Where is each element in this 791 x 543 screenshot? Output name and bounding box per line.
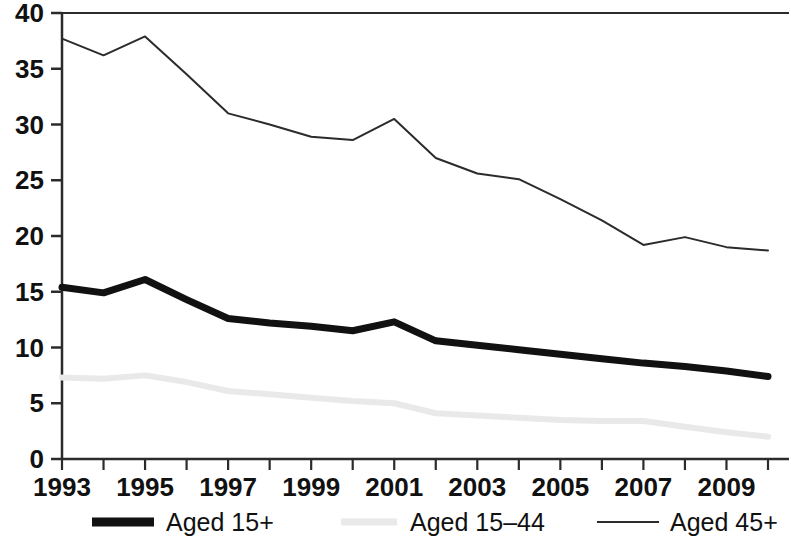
- y-tick-label-0: 0: [30, 444, 44, 474]
- y-tick-label-30: 30: [15, 110, 44, 140]
- chart-container: 0510152025303540 19931995199719992001200…: [0, 0, 791, 543]
- x-axis-tick-labels: 199319951997199920012003200520072009: [33, 472, 755, 502]
- y-tick-label-40: 40: [15, 0, 44, 28]
- y-tick-label-20: 20: [15, 221, 44, 251]
- x-tick-label-1997: 1997: [199, 472, 257, 502]
- x-tick-label-2005: 2005: [531, 472, 589, 502]
- line-chart: 0510152025303540 19931995199719992001200…: [0, 0, 791, 543]
- y-tick-label-25: 25: [15, 165, 44, 195]
- x-tick-label-1999: 1999: [282, 472, 340, 502]
- y-tick-label-10: 10: [15, 333, 44, 363]
- y-tick-label-5: 5: [30, 388, 44, 418]
- chart-legend: Aged 15+Aged 15–44Aged 45+: [92, 508, 778, 536]
- x-tick-label-1995: 1995: [116, 472, 174, 502]
- y-tick-label-35: 35: [15, 54, 44, 84]
- y-tick-label-15: 15: [15, 277, 44, 307]
- x-tick-label-1993: 1993: [33, 472, 91, 502]
- x-tick-label-2007: 2007: [614, 472, 672, 502]
- legend-label-1: Aged 15+: [166, 508, 274, 536]
- chart-background: [0, 0, 791, 543]
- x-tick-label-2003: 2003: [448, 472, 506, 502]
- legend-label-2: Aged 15–44: [410, 508, 545, 536]
- x-tick-label-2009: 2009: [698, 472, 756, 502]
- legend-label-3: Aged 45+: [670, 508, 778, 536]
- x-tick-label-2001: 2001: [365, 472, 423, 502]
